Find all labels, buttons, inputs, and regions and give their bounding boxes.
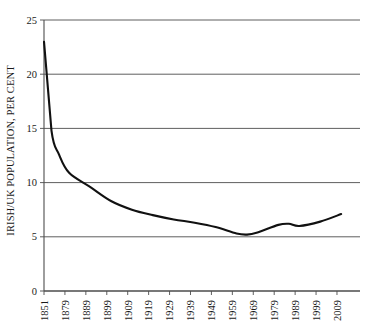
x-tick-label: 1879	[60, 300, 71, 321]
y-tick-label: 5	[32, 231, 37, 242]
x-tick-label: 1999	[311, 300, 322, 321]
x-tick-label: 1939	[185, 300, 196, 321]
x-tick-label: 1949	[206, 300, 217, 321]
x-tick-label: 1909	[123, 300, 134, 321]
x-tick-label: 1919	[143, 300, 154, 321]
gridline-group	[44, 20, 360, 291]
x-tick-label: 1969	[248, 300, 259, 321]
y-tick-label: 25	[27, 15, 38, 26]
x-tick-label: 1959	[227, 300, 238, 321]
line-chart-plot: 0510152025 18511879188918991909191919291…	[0, 0, 367, 324]
x-tick-label: 1989	[290, 300, 301, 321]
x-tick-label: 1899	[102, 300, 113, 321]
x-tick-label: 1979	[269, 300, 280, 321]
x-tick-label: 2009	[332, 300, 343, 321]
data-series-line	[44, 42, 341, 235]
y-tick-group: 0510152025	[27, 15, 45, 297]
chart-figure: IRISH/UK POPULATION, PER CENT 0510152025…	[0, 0, 367, 324]
y-tick-label: 20	[27, 69, 38, 80]
x-tick-group: 1851187918891899190919191929193919491959…	[39, 291, 343, 321]
x-tick-label: 1929	[164, 300, 175, 321]
x-tick-label: 1851	[39, 300, 50, 321]
y-tick-label: 15	[27, 123, 38, 134]
y-tick-label: 0	[32, 286, 37, 297]
x-tick-label: 1889	[81, 300, 92, 321]
y-tick-label: 10	[27, 177, 38, 188]
